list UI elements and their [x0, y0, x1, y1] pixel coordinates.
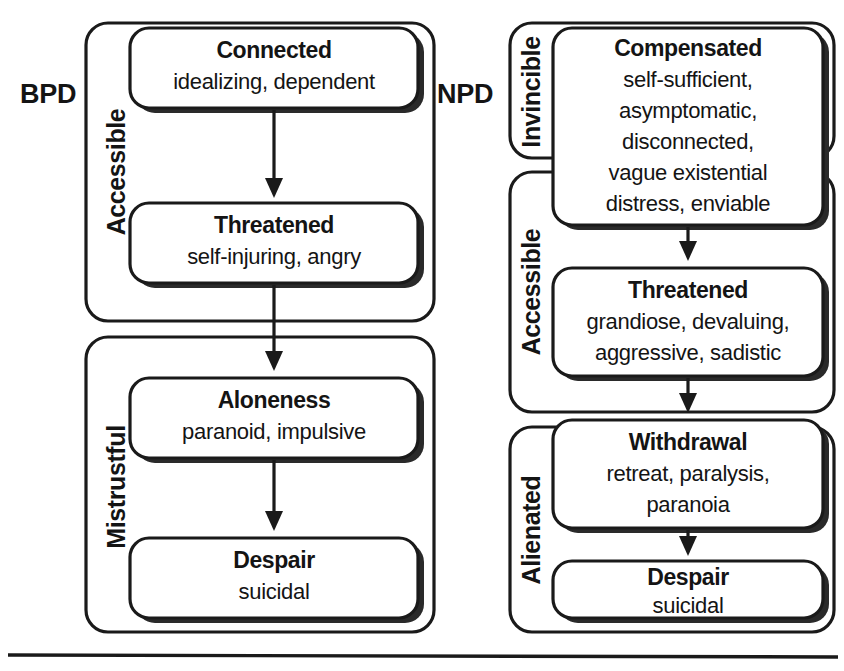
node-npd-despair: Despair suicidal — [553, 561, 829, 623]
node-desc-npd-compensated-line-2: disconnected, — [622, 129, 754, 154]
node-bpd-threatened: Threatened self-injuring, angry — [130, 203, 424, 288]
node-desc-bpd-threatened-line-0: self-injuring, angry — [187, 244, 361, 269]
node-desc-npd-compensated-line-0: self-sufficient, — [623, 67, 752, 92]
node-bpd-aloneness: Aloneness paranoid, impulsive — [130, 378, 424, 463]
column-npd: NPD Invincible Accessible Alienated Comp… — [437, 23, 834, 632]
node-desc-npd-compensated-line-1: asymptomatic, — [619, 98, 757, 123]
node-desc-npd-withdrawal-line-0: retreat, paralysis, — [606, 461, 769, 486]
node-title-npd-threatened: Threatened — [628, 277, 748, 303]
node-desc-bpd-aloneness-line-0: paranoid, impulsive — [182, 419, 366, 444]
node-desc-bpd-despair-line-0: suicidal — [239, 579, 310, 604]
node-npd-withdrawal: Withdrawal retreat, paralysis, paranoia — [553, 420, 829, 533]
node-title-bpd-despair: Despair — [233, 547, 315, 573]
group-label-bpd-mistrustful: Mistrustful — [102, 425, 130, 548]
group-bpd-mistrustful: Mistrustful Aloneness paranoid, impulsiv… — [86, 285, 434, 632]
group-bpd-accessible: Accessible Connected idealizing, depende… — [86, 23, 434, 321]
node-npd-compensated: Compensated self-sufficient, asymptomati… — [553, 28, 829, 230]
group-label-npd-invincible: Invincible — [517, 36, 545, 148]
node-desc-bpd-connected-line-0: idealizing, dependent — [173, 69, 375, 94]
group-label-npd-accessible: Accessible — [517, 228, 545, 355]
node-desc-npd-compensated-line-4: distress, enviable — [606, 191, 771, 216]
node-title-bpd-connected: Connected — [216, 37, 331, 63]
column-bpd: BPD Accessible Connected idealizing, dep… — [20, 23, 434, 632]
node-bpd-despair: Despair suicidal — [130, 538, 424, 623]
column-label-bpd: BPD — [20, 79, 76, 109]
group-label-npd-alienated: Alienated — [517, 476, 545, 585]
node-title-bpd-threatened: Threatened — [214, 212, 334, 238]
node-desc-npd-threatened-line-1: aggressive, sadistic — [595, 340, 781, 365]
node-desc-npd-threatened-line-0: grandiose, devaluing, — [587, 309, 790, 334]
node-desc-npd-despair-line-0: suicidal — [653, 593, 724, 618]
node-title-npd-despair: Despair — [647, 564, 729, 590]
node-npd-threatened: Threatened grandiose, devaluing, aggress… — [553, 268, 829, 381]
group-label-bpd-accessible: Accessible — [102, 108, 130, 235]
node-desc-npd-compensated-line-3: vague existential — [609, 160, 768, 185]
node-title-npd-compensated: Compensated — [614, 35, 762, 61]
node-bpd-connected: Connected idealizing, dependent — [130, 28, 424, 113]
node-title-bpd-aloneness: Aloneness — [218, 387, 331, 413]
state-diagram: BPD Accessible Connected idealizing, dep… — [0, 0, 844, 671]
column-label-npd: NPD — [437, 79, 493, 109]
node-title-npd-withdrawal: Withdrawal — [629, 429, 747, 455]
node-desc-npd-withdrawal-line-1: paranoia — [646, 492, 730, 517]
bottom-divider — [8, 655, 838, 657]
diagram-root: BPD Accessible Connected idealizing, dep… — [0, 0, 844, 671]
